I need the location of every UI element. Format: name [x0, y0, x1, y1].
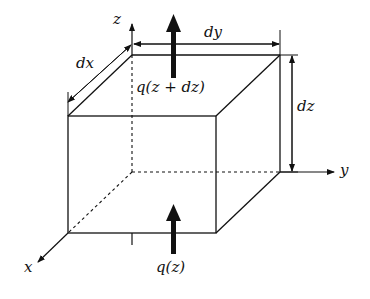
flux-top-label: q(z + dz) [136, 80, 205, 95]
dx-label: dx [76, 56, 94, 71]
flux-top-arrow [166, 14, 181, 78]
cube-diagram [0, 0, 370, 299]
cube-front-face [68, 116, 216, 233]
dy-label: dy [204, 25, 222, 40]
x-axis-label: x [24, 260, 32, 275]
z-axis-label: z [113, 12, 121, 27]
cube-bottom-right-edge [216, 172, 280, 233]
flux-bottom-arrow [166, 204, 181, 254]
dz-label: dz [297, 99, 315, 114]
hidden-bottom-left-edge [68, 172, 132, 233]
cube-top-right-edge [216, 55, 280, 116]
y-axis-label: y [340, 163, 348, 178]
x-axis [38, 233, 68, 262]
flux-bottom-label: q(z) [156, 260, 185, 275]
